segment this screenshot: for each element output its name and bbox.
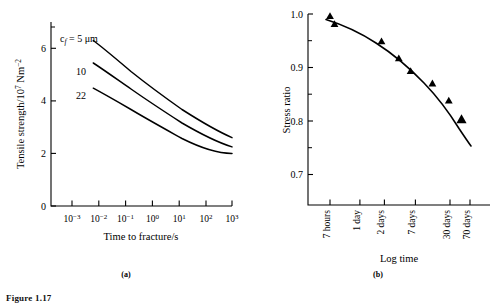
- chart-a-annotation-10: 10: [76, 66, 86, 77]
- chart-b-data-markers: [326, 12, 467, 123]
- chart-b-caption: (b): [252, 270, 504, 279]
- data-point: [429, 80, 437, 87]
- chart-a-curve-cf22: [93, 88, 232, 153]
- svg-text:1.0: 1.0: [291, 9, 304, 20]
- svg-text:101: 101: [173, 213, 187, 224]
- chart-a-xlabel: Time to fracture/s: [104, 231, 179, 242]
- chart-a-ylabel: Tensile strength/107 Nm−2: [14, 59, 26, 169]
- chart-b-ytick-0_7: 0.7: [291, 169, 314, 180]
- svg-text:1 day: 1 day: [352, 210, 362, 231]
- chart-a-ytick-2: 2: [41, 148, 56, 159]
- svg-text:0.8: 0.8: [291, 116, 304, 127]
- svg-text:0.7: 0.7: [291, 169, 304, 180]
- svg-text:7 days: 7 days: [407, 210, 417, 235]
- chart-panel-b: Stress ratio 1.0 0.9 0.8 0.7: [252, 0, 504, 300]
- data-point: [456, 114, 466, 123]
- chart-b-ytick-0_8: 0.8: [291, 116, 314, 127]
- chart-b-svg: Stress ratio 1.0 0.9 0.8 0.7: [252, 0, 504, 270]
- svg-text:10−3: 10−3: [64, 213, 81, 224]
- figure-number: Figure 1.17: [6, 293, 52, 303]
- chart-b-ytick-0_9: 0.9: [291, 62, 314, 73]
- svg-text:100: 100: [146, 213, 160, 224]
- svg-text:2 days: 2 days: [376, 210, 386, 235]
- svg-text:103: 103: [226, 213, 240, 224]
- svg-text:0: 0: [41, 201, 46, 212]
- chart-a-ytick-4: 4: [41, 95, 56, 106]
- chart-a-xticklabels: 10−3 10−2 10−1 100 101 102 103: [64, 213, 239, 224]
- chart-a-caption: (a): [0, 270, 252, 279]
- svg-text:4: 4: [41, 95, 46, 106]
- svg-text:7 hours: 7 hours: [322, 210, 332, 239]
- data-point: [326, 12, 334, 19]
- chart-a-xticks: [72, 201, 232, 207]
- chart-a-annotation-cf: cf = 5 μm: [60, 33, 98, 46]
- chart-a-svg: Tensile strength/107 Nm−2 0 2 4 6: [0, 0, 252, 270]
- chart-a-curve-cf5: [93, 41, 232, 138]
- chart-b-xlabel: Log time: [380, 253, 419, 264]
- svg-text:6: 6: [41, 43, 46, 54]
- chart-panel-a: Tensile strength/107 Nm−2 0 2 4 6: [0, 0, 252, 300]
- chart-b-xticks: [330, 200, 470, 206]
- svg-text:2: 2: [41, 148, 46, 159]
- svg-text:70 days: 70 days: [462, 210, 472, 240]
- data-point: [378, 37, 386, 44]
- chart-b-axes: [308, 14, 490, 205]
- chart-b-ytick-1_0: 1.0: [291, 9, 314, 20]
- chart-b-yminorticks: [308, 41, 312, 148]
- chart-b-xticklabels: 7 hours 1 day 2 days 7 days 30 days 70 d…: [322, 210, 472, 240]
- chart-b-fit-curve: [326, 20, 471, 147]
- chart-a-annotation-22: 22: [76, 90, 86, 101]
- svg-text:10−2: 10−2: [90, 213, 107, 224]
- svg-text:10−1: 10−1: [117, 213, 134, 224]
- chart-a-ytick-6: 6: [41, 43, 56, 54]
- chart-a-ytick-0: 0: [41, 201, 56, 212]
- chart-a-axes: [51, 22, 232, 206]
- svg-text:0.9: 0.9: [291, 62, 304, 73]
- chart-a-curve-cf10: [93, 63, 232, 147]
- svg-text:30 days: 30 days: [442, 210, 452, 240]
- data-point: [445, 97, 453, 104]
- svg-text:102: 102: [200, 213, 214, 224]
